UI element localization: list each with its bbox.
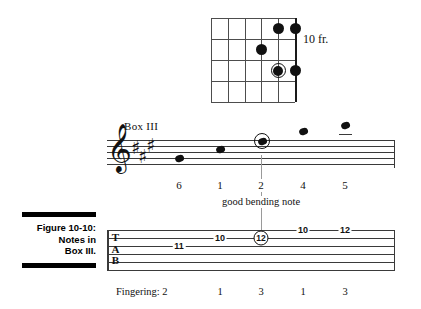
tab-number: 12	[338, 226, 351, 235]
tab-letter-b: B	[110, 255, 121, 267]
tab-letters: T A B	[110, 232, 121, 267]
caption-rule-top	[22, 212, 96, 217]
treble-clef-icon: 𝄞	[107, 127, 132, 169]
chord-fret-line	[211, 18, 295, 19]
tab-line	[107, 262, 395, 263]
fingering-row: Fingering: 2 1313	[0, 286, 421, 300]
caption-line-2: Notes in	[8, 234, 96, 246]
chord-dot	[290, 65, 301, 76]
figure-caption: Figure 10-10: Notes in Box III.	[8, 212, 96, 268]
notehead	[174, 153, 185, 162]
tab-number: 10	[296, 226, 309, 235]
notation-fingering-number: 1	[217, 179, 223, 191]
chord-dot	[256, 44, 267, 55]
sharp-icon: ♯	[146, 136, 155, 155]
caption-line-3: Box III.	[8, 245, 96, 257]
chord-dot	[290, 23, 301, 34]
bend-guide-line	[261, 155, 262, 179]
notation-fingering-number: 4	[300, 179, 306, 191]
chord-fret-line	[211, 39, 295, 40]
caption-rule-bottom	[22, 263, 96, 268]
fingering-number: 3	[342, 286, 347, 297]
fingering-number: 1	[300, 286, 305, 297]
tab-line	[107, 246, 395, 247]
caption-line-1: Figure 10-10:	[8, 222, 96, 234]
notation-fingering-number: 5	[342, 179, 348, 191]
chord-fret-line	[211, 102, 295, 103]
fret-position-label: 10 fr.	[303, 32, 328, 47]
tab-number: 10	[213, 234, 226, 243]
tab-line	[107, 270, 395, 271]
staff-end-barline	[394, 140, 396, 168]
tablature-staff: 1110121012	[107, 230, 395, 270]
staff-line	[107, 158, 395, 159]
fingering-label: Fingering: 2	[116, 286, 168, 297]
chord-fret-line	[211, 60, 295, 61]
notehead-highlighted	[254, 133, 270, 149]
notehead	[340, 120, 351, 129]
tab-line	[107, 230, 395, 231]
ledger-line	[339, 134, 352, 135]
notation-fingering-number: 2	[258, 179, 264, 191]
tab-number-highlighted: 12	[254, 231, 269, 246]
bend-note-label: good bending note	[222, 196, 300, 207]
staff-line	[107, 164, 395, 165]
tab-start-barline	[107, 230, 109, 270]
chord-diagram: 10 fr.	[211, 18, 295, 102]
ledger-line	[297, 140, 310, 141]
tab-line	[107, 238, 395, 239]
tab-end-barline	[394, 230, 396, 270]
notation-staff: 𝄞 ♯ ♯ ♯	[107, 140, 395, 168]
notehead	[298, 126, 309, 135]
figure-page: 10 fr. Figure 10-10: Notes in Box III. B…	[0, 0, 421, 309]
chord-dot-root	[271, 63, 286, 78]
tab-line	[107, 254, 395, 255]
fingering-number: 1	[217, 286, 222, 297]
tab-letter-t: T	[110, 232, 121, 244]
notation-fingering-number: 6	[176, 179, 182, 191]
chord-dot	[273, 23, 284, 34]
tab-number: 11	[173, 242, 186, 251]
fingering-number: 3	[258, 286, 263, 297]
chord-fret-line	[211, 81, 295, 82]
